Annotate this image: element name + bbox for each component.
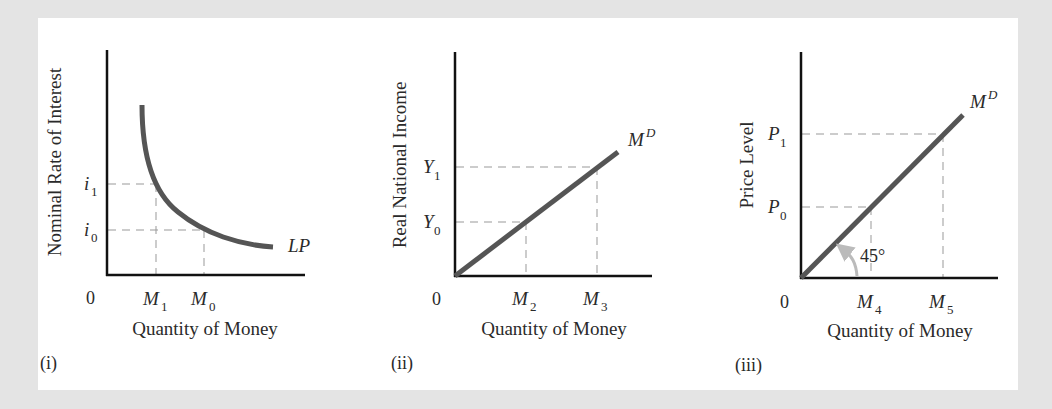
x-tick-m5: M 5 [928, 291, 954, 317]
svg-text:0: 0 [209, 299, 216, 314]
svg-text:0: 0 [91, 230, 98, 245]
angle-arrow-icon [843, 249, 857, 276]
svg-text:1: 1 [434, 168, 441, 183]
svg-text:D: D [987, 87, 998, 102]
y-tick-p0: P 0 [767, 196, 787, 223]
lp-curve [142, 105, 273, 247]
svg-text:3: 3 [601, 299, 608, 314]
svg-text:M: M [627, 129, 645, 150]
y-tick-p1: P 1 [767, 123, 787, 150]
svg-text:2: 2 [530, 299, 537, 314]
y-axis-label: Price Level [736, 121, 757, 208]
chart-liquidity-preference: Nominal Rate of Interest Quantity of Mon… [40, 50, 311, 374]
origin-label: 0 [780, 292, 789, 312]
svg-text:0: 0 [434, 223, 441, 238]
guide-lines [108, 184, 204, 275]
svg-text:M: M [511, 288, 529, 309]
chart-income-money-demand: Real National Income Quantity of Money 0… [389, 52, 656, 374]
curve-label: M D [969, 87, 998, 112]
x-tick-m2: M 2 [511, 288, 537, 314]
x-tick-m1: M 1 [142, 288, 168, 314]
x-tick-m0: M 0 [190, 288, 216, 314]
svg-text:1: 1 [91, 184, 98, 199]
svg-text:i: i [84, 219, 89, 240]
svg-text:i: i [84, 173, 89, 194]
panel-label: (iii) [735, 355, 762, 376]
y-tick-y1: Y 1 [423, 156, 441, 183]
angle-label: 45° [860, 246, 885, 266]
origin-label: 0 [432, 289, 441, 309]
y-axis-label: Real National Income [389, 82, 410, 249]
svg-text:M: M [969, 91, 987, 112]
figure-svg: Nominal Rate of Interest Quantity of Mon… [0, 0, 1052, 409]
svg-text:D: D [645, 125, 656, 140]
y-tick-y0: Y 0 [423, 211, 441, 238]
panel-label: (ii) [391, 353, 413, 374]
panel-label: (i) [40, 353, 57, 374]
svg-text:5: 5 [947, 302, 954, 317]
svg-text:P: P [767, 196, 780, 217]
svg-text:M: M [142, 288, 160, 309]
x-axis-label: Quantity of Money [481, 318, 627, 339]
x-axis-label: Quantity of Money [132, 318, 278, 339]
x-tick-m4: M 4 [856, 291, 882, 317]
x-tick-m3: M 3 [582, 288, 608, 314]
curve-label: M D [627, 125, 656, 150]
y-tick-i0: i 0 [84, 219, 98, 245]
x-axis-label: Quantity of Money [827, 320, 973, 341]
svg-text:P: P [767, 123, 780, 144]
svg-text:M: M [856, 291, 874, 312]
svg-text:0: 0 [780, 208, 787, 223]
svg-text:M: M [582, 288, 600, 309]
y-axis-label: Nominal Rate of Interest [44, 67, 65, 256]
curve-label: LP [287, 235, 311, 256]
svg-text:1: 1 [780, 135, 787, 150]
md-curve [455, 152, 618, 276]
origin-label: 0 [86, 288, 95, 308]
svg-text:M: M [928, 291, 946, 312]
svg-text:4: 4 [875, 302, 882, 317]
y-tick-i1: i 1 [84, 173, 98, 199]
svg-text:M: M [190, 288, 208, 309]
chart-price-money-demand: 45° Price Level Quantity of Money 0 (iii… [735, 52, 998, 376]
svg-text:1: 1 [161, 299, 168, 314]
